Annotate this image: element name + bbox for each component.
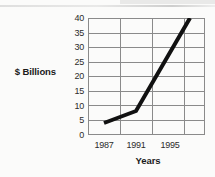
scan-artifact bbox=[0, 5, 215, 7]
plot-area bbox=[88, 18, 205, 135]
y-tick-label: 15 bbox=[58, 87, 84, 96]
horizontal-gridlines bbox=[88, 19, 205, 135]
y-tick-label: 35 bbox=[58, 29, 84, 38]
x-tick-label: 1987 bbox=[87, 140, 121, 150]
y-tick-label: 10 bbox=[58, 102, 84, 111]
y-tick-label: 40 bbox=[58, 14, 84, 23]
x-axis-title: Years bbox=[88, 155, 208, 166]
x-axis-tick-labels: 1987 1991 1995 bbox=[88, 140, 208, 152]
line-chart: $ Billions 40 35 30 25 20 15 10 5 0 bbox=[0, 0, 215, 177]
scan-artifact-secondary bbox=[120, 0, 215, 4]
y-tick-label: 25 bbox=[58, 58, 84, 67]
plot-svg bbox=[88, 18, 205, 135]
y-tick-label: 0 bbox=[58, 131, 84, 140]
y-tick-label: 20 bbox=[58, 72, 84, 81]
x-tick-label: 1995 bbox=[153, 140, 187, 150]
y-axis-title: $ Billions bbox=[8, 66, 56, 77]
y-tick-label: 30 bbox=[58, 43, 84, 52]
y-tick-label: 5 bbox=[58, 116, 84, 125]
y-axis-tick-labels: 40 35 30 25 20 15 10 5 0 bbox=[58, 18, 84, 135]
data-line-series-1 bbox=[104, 18, 190, 123]
x-tick-label: 1991 bbox=[119, 140, 153, 150]
